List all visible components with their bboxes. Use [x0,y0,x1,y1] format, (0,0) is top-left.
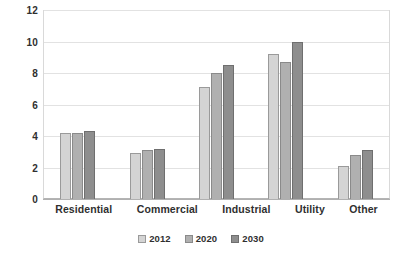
bar-group [268,10,303,199]
x-tick-label: Other [349,203,378,215]
bar[interactable] [338,166,349,199]
x-tick-label: Commercial [137,203,198,215]
bar-group [199,10,234,199]
x-axis-labels: ResidentialCommercialIndustrialUtilityOt… [43,203,390,221]
bar-groups [43,10,390,199]
legend-label: 2030 [242,233,264,244]
y-tick-label: 8 [0,68,38,79]
x-tick-label: Residential [55,203,112,215]
bar-group [130,10,165,199]
legend-swatch-icon [185,235,193,243]
bar[interactable] [223,65,234,199]
bar[interactable] [84,131,95,199]
legend-swatch-icon [231,235,239,243]
legend-item[interactable]: 2030 [231,233,264,244]
y-tick-label: 12 [0,5,38,16]
bar[interactable] [292,42,303,200]
bar[interactable] [72,133,83,199]
legend-swatch-icon [138,235,146,243]
legend: 201220202030 [0,233,402,244]
bar[interactable] [280,62,291,199]
y-tick-label: 4 [0,131,38,142]
y-tick-label: 2 [0,162,38,173]
legend-label: 2020 [196,233,218,244]
bar-chart: 024681012 ResidentialCommercialIndustria… [0,0,402,258]
bar[interactable] [154,149,165,199]
y-tick-label: 0 [0,194,38,205]
bar[interactable] [142,150,153,199]
gridline-0 [43,199,390,200]
legend-label: 2012 [149,233,171,244]
bar[interactable] [350,155,361,199]
bar[interactable] [60,133,71,199]
x-tick-label: Industrial [222,203,270,215]
bar-group [60,10,95,199]
bar[interactable] [211,73,222,199]
bar[interactable] [362,150,373,199]
legend-item[interactable]: 2020 [185,233,218,244]
bar[interactable] [268,54,279,199]
x-tick-label: Utility [295,203,325,215]
plot-area [43,10,390,199]
bar[interactable] [130,153,141,199]
bar[interactable] [199,87,210,199]
bar-group [338,10,373,199]
y-tick-label: 6 [0,99,38,110]
legend-item[interactable]: 2012 [138,233,171,244]
y-tick-label: 10 [0,36,38,47]
